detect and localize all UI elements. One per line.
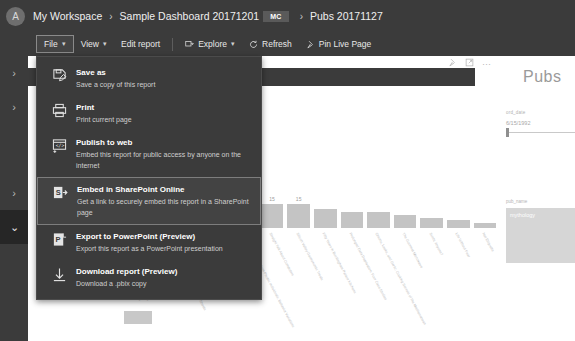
date-slicer-handle[interactable] [506,128,509,137]
menu-item-text: Download report (Preview)Download a .pbi… [72,266,177,289]
menu-item-title: Export to PowerPoint (Preview) [76,231,223,242]
menu-item-text: PrintPrint current page [72,102,132,125]
menu-item-subtitle: Download a .pbix copy [76,278,177,289]
sidebar-item-expand-1[interactable]: › [0,56,28,90]
bar[interactable] [367,212,390,228]
menu-item-title: Embed in SharePoint Online [77,184,252,195]
command-toolbar: File ▾ View ▾ Edit report Explore ▾ Refr… [0,32,575,56]
explore-menu-button[interactable]: Explore ▾ [178,35,242,53]
bar[interactable] [341,212,364,228]
view-menu-button[interactable]: View ▾ [74,35,114,53]
bar-column[interactable]: 15 [287,168,310,228]
bar-column[interactable] [420,168,443,228]
chevron-down-icon-rail: ⌄ [10,221,19,234]
chevron-right-icon-2: › [12,101,16,113]
date-range-slicer[interactable]: ord_date 6/15/1992 6/14/ [506,110,575,133]
list-slicer-field-label: pub_name [506,199,575,204]
menu-item-text: Export to PowerPoint (Preview)Export thi… [72,231,223,254]
edit-report-button[interactable]: Edit report [114,35,167,53]
edit-report-label: Edit report [121,39,160,49]
menu-item-text: Publish to webEmbed this report for publ… [72,137,253,171]
bar[interactable] [474,223,497,228]
chevron-down-icon-explore: ▾ [231,40,235,48]
file-menu-label: File [44,39,58,49]
breadcrumb-dashboard[interactable]: Sample Dashboard 20171201 [120,10,260,22]
menu-item-title: Print [76,102,132,113]
svg-text:S: S [55,188,60,197]
x-axis-label-slot: Onions, Leeks, and Garlic: Cooking Secre… [367,230,390,315]
more-options-icon[interactable]: ··· [482,59,491,69]
file-menu-button[interactable]: File ▾ [36,35,74,53]
bar-column[interactable] [474,168,497,228]
date-slicer-start: 6/15/1992 [506,120,530,126]
menu-item-download-report-preview[interactable]: Download report (Preview)Download a .pbi… [37,260,261,295]
date-slicer-field-label: ord_date [506,110,575,115]
x-axis-label-slot: Silicon Valley Gastronomic Treats [287,230,310,315]
file-dropdown-menu: Save asSave a copy of this reportPrintPr… [36,56,262,300]
sidebar-item-expand-3[interactable]: › [0,176,28,210]
bar[interactable] [314,209,337,228]
bar-column[interactable] [447,168,470,228]
refresh-button[interactable]: Refresh [242,35,299,53]
refresh-label: Refresh [262,39,292,49]
menu-item-embed-in-sharepoint-online[interactable]: SEmbed in SharePoint OnlineGet a link to… [37,177,261,225]
bar-column[interactable] [367,168,390,228]
bar-column[interactable]: 15 [261,168,284,228]
powerpoint-icon: P [46,231,72,247]
svg-text:</>: </> [55,143,64,148]
menu-item-title: Download report (Preview) [76,266,177,277]
breadcrumb-workspace[interactable]: My Workspace [33,10,102,22]
pin-live-page-button[interactable]: Pin Live Page [299,35,378,53]
left-nav-rail: › › › ⌄ [0,56,28,341]
x-axis-label-slot: Prolonged Data Deprivation: Four Case St… [341,230,364,315]
avatar[interactable]: A [6,7,25,26]
menu-item-export-to-powerpoint-preview[interactable]: PExport to PowerPoint (Preview)Export th… [37,225,261,260]
x-axis-label-slot: The Gourmet Microwave [394,230,417,315]
sidebar-item-expand-2[interactable]: › [0,90,28,124]
menu-item-text: Save asSave a copy of this report [72,67,155,90]
menu-item-save-as[interactable]: Save asSave a copy of this report [37,61,261,96]
list-item[interactable]: mythology [510,212,575,218]
rail-spacer [0,124,28,176]
bar-value-label: 15 [296,196,302,202]
x-axis-label-slot: Life Without Fear [447,230,470,315]
print-icon [46,102,72,118]
sidebar-item-collapse-4[interactable]: ⌄ [0,210,28,244]
publisher-list-slicer[interactable]: pub_name mythology [506,199,575,263]
breadcrumb-separator-icon-2: › [300,11,303,22]
bar-column[interactable] [314,168,337,228]
list-slicer-box[interactable]: mythology [506,208,575,263]
menu-item-print[interactable]: PrintPrint current page [37,96,261,131]
breadcrumb-bar: A My Workspace › Sample Dashboard 201712… [0,0,575,32]
chevron-right-icon-1: › [12,67,16,79]
secondary-visual: count by city [124,296,152,324]
bar[interactable] [394,215,417,228]
save-as-icon [46,67,72,83]
date-slicer-track[interactable] [506,132,575,133]
menu-item-title: Publish to web [76,137,253,148]
bar[interactable] [420,218,443,228]
bar[interactable] [261,204,284,228]
menu-item-subtitle: Get a link to securely embed this report… [77,196,252,218]
x-axis-label-slot: Sushi, Anyone? [420,230,443,315]
menu-item-publish-to-web[interactable]: </>Publish to webEmbed this report for p… [37,131,261,177]
bar[interactable] [287,204,310,228]
breadcrumb-badge: MC [263,11,289,22]
chevron-down-icon-view: ▾ [103,40,107,48]
page-title: Pubs [523,68,561,86]
bar[interactable] [447,220,470,228]
bar-column[interactable] [394,168,417,228]
menu-item-subtitle: Save a copy of this report [76,79,155,90]
chevron-down-icon: ▾ [62,40,66,48]
breadcrumb-report[interactable]: Pubs 20171127 [310,10,383,22]
x-axis-label-slot: Net Etiquette [474,230,497,315]
bar-column[interactable] [341,168,364,228]
breadcrumb-separator-icon: › [109,11,112,22]
power-bi-report-window: A My Workspace › Sample Dashboard 201712… [0,0,575,341]
download-icon [46,266,72,282]
menu-item-text: Embed in SharePoint OnlineGet a link to … [73,184,252,218]
chevron-right-icon-3: › [12,187,16,199]
avatar-initial: A [12,11,19,22]
svg-text:P: P [55,235,60,244]
menu-item-subtitle: Print current page [76,114,132,125]
